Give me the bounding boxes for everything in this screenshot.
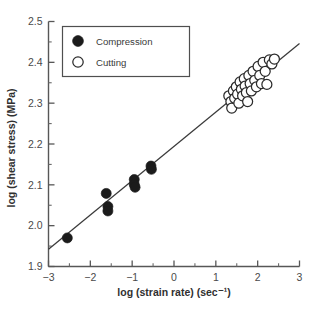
chart-figure: −3−2−10123 1.92.02.12.22.32.42.5 Compres… xyxy=(0,0,318,311)
x-tick-label: −1 xyxy=(126,271,138,283)
y-tick-label: 2.3 xyxy=(28,97,43,109)
legend-label-cutting: Cutting xyxy=(96,57,126,68)
y-tick-label: 2.5 xyxy=(28,15,43,27)
data-point-cutting xyxy=(269,54,279,64)
data-point-cutting xyxy=(262,79,272,89)
scatter-plot: −3−2−10123 1.92.02.12.22.32.42.5 Compres… xyxy=(0,0,318,311)
data-point-compression xyxy=(62,233,72,243)
y-tick-label: 2.4 xyxy=(28,56,43,68)
x-axis-title: log (strain rate) (sec⁻¹) xyxy=(117,286,230,298)
x-tick-label: 1 xyxy=(213,271,219,283)
data-point-cutting xyxy=(243,97,253,107)
chart-legend: Compression Cutting xyxy=(63,27,190,77)
legend-marker-compression xyxy=(73,36,84,47)
x-tick-label: 2 xyxy=(255,271,261,283)
y-tick-label: 2.2 xyxy=(28,138,43,150)
data-point-compression xyxy=(103,206,113,216)
y-axis-title: log (shear stress) (MPa) xyxy=(5,88,17,207)
x-tick-label: 0 xyxy=(171,271,177,283)
x-tick-label: 3 xyxy=(297,271,303,283)
legend-label-compression: Compression xyxy=(96,36,153,47)
data-point-compression xyxy=(130,182,140,192)
legend-box xyxy=(63,27,190,77)
data-point-compression xyxy=(101,188,111,198)
y-tick-label: 2.1 xyxy=(28,179,43,191)
x-tick-label: −3 xyxy=(43,271,55,283)
y-tick-label: 2.0 xyxy=(28,219,43,231)
y-tick-label: 1.9 xyxy=(28,260,43,272)
data-point-compression xyxy=(146,164,156,174)
legend-marker-cutting xyxy=(73,57,83,67)
x-tick-label: −2 xyxy=(84,271,96,283)
